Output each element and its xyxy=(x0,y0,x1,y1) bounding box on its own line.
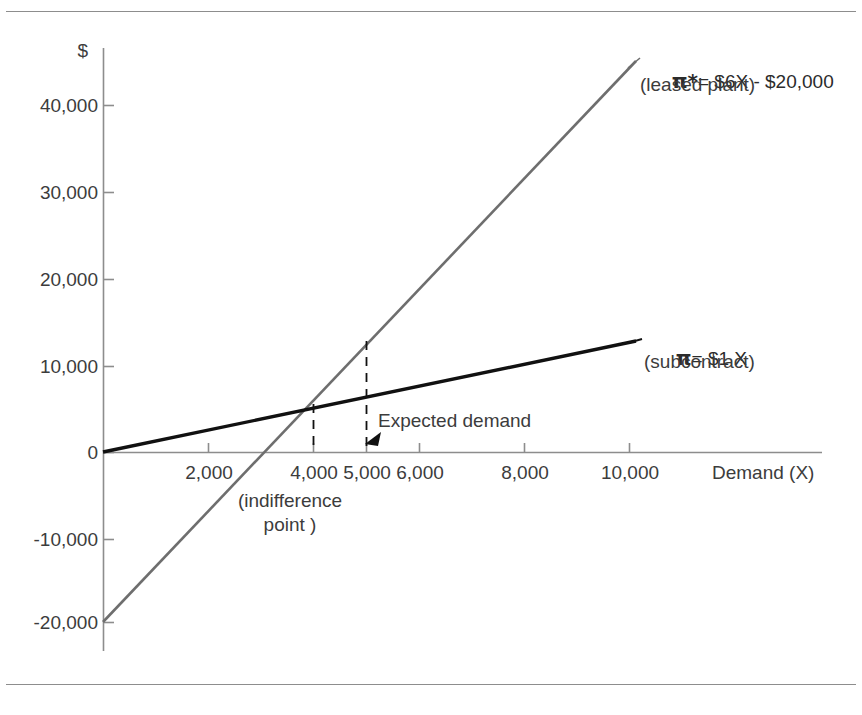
figure-page: $ 40,000 30,000 20,000 10,000 0 -10,000 … xyxy=(0,0,862,715)
series-sublabel-leased-plant: (leased plant) xyxy=(640,74,755,96)
y-tick-label-40000: 40,000 xyxy=(0,95,98,117)
series-sublabel-subcontract: (subcontract) xyxy=(644,351,755,373)
leased-plant-label-leader xyxy=(628,58,640,68)
y-tick-label-30000: 30,000 xyxy=(0,182,98,204)
series-line-subcontract xyxy=(103,341,636,452)
bottom-divider-rule xyxy=(6,684,856,685)
x-axis-title: Demand (X) xyxy=(712,462,814,484)
chart-plot-area: $ 40,000 30,000 20,000 10,000 0 -10,000 … xyxy=(0,0,862,680)
y-tick-label-10000: 10,000 xyxy=(0,356,98,378)
series-line-leased-plant xyxy=(103,61,636,622)
x-tick-label-2000: 2,000 xyxy=(154,462,264,484)
y-tick-label-minus10000: -10,000 xyxy=(0,529,98,551)
y-axis-unit-label: $ xyxy=(28,40,88,62)
indifference-annotation-line2: point ) xyxy=(180,514,400,536)
y-tick-label-0: 0 xyxy=(0,442,98,464)
indifference-annotation-line1: (indifference xyxy=(180,490,400,512)
x-tick-label-8000: 8,000 xyxy=(470,462,580,484)
x-tick-label-10000: 10,000 xyxy=(575,462,685,484)
y-axis-ticks xyxy=(104,106,114,623)
x-tick-label-6000: 6,000 xyxy=(365,462,475,484)
y-tick-label-minus20000: -20,000 xyxy=(0,612,98,634)
expected-demand-annotation: Expected demand xyxy=(378,410,628,432)
y-tick-label-20000: 20,000 xyxy=(0,269,98,291)
